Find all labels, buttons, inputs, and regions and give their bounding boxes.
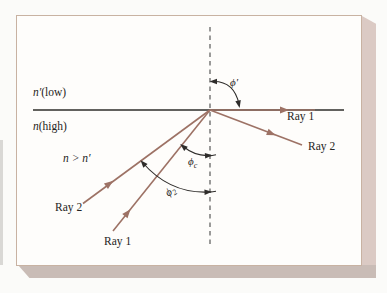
label-index-condition: n > n′ [63,152,91,164]
angle-arc-phi-2 [143,163,210,193]
medium-high-text: (high) [39,120,67,133]
label-ray2-incident: Ray 2 [55,201,82,214]
ray2-reflected-arrowhead [266,129,277,139]
label-medium-low: n′(low) [33,86,66,99]
angle-critical-subscript: c [194,161,198,170]
label-medium-high: n(high) [33,120,67,133]
optics-diagram: n′(low) n(high) n > n′ Ray 1 Ray 2 Ray 2… [0,0,387,293]
label-angle-critical: ϕc [188,155,198,170]
label-angle-incidence: ϕ2 [163,183,179,200]
label-ray1-refracted: Ray 1 [287,110,314,123]
label-ray2-reflected: Ray 2 [308,140,335,153]
label-angle-refraction: ϕ′ [230,76,239,88]
phi-prime-arc-arrowhead-bottom [235,100,242,109]
medium-low-text: (low) [41,86,66,99]
label-ray1-incident: Ray 1 [104,235,131,248]
